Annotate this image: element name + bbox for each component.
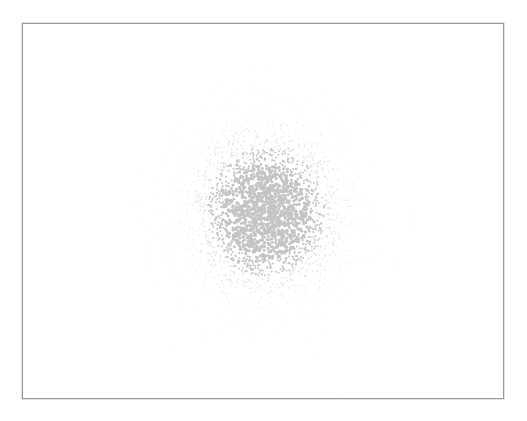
data-point: [270, 149, 272, 151]
data-point: [231, 282, 233, 284]
data-point: [186, 220, 188, 222]
data-point: [253, 160, 255, 162]
data-point: [290, 103, 291, 104]
data-point: [319, 134, 320, 135]
data-point: [194, 153, 195, 154]
data-point: [318, 176, 320, 178]
data-point: [317, 125, 318, 126]
data-point: [314, 277, 316, 279]
data-point: [355, 197, 356, 198]
data-point: [216, 251, 218, 253]
data-point: [331, 245, 333, 247]
data-point: [312, 145, 314, 147]
data-point: [200, 264, 201, 265]
data-point: [224, 249, 226, 251]
data-point: [263, 228, 266, 231]
data-point: [165, 155, 166, 156]
data-point: [305, 198, 308, 201]
data-point: [271, 235, 274, 238]
data-point: [271, 135, 273, 137]
data-point: [200, 257, 202, 259]
data-point: [302, 240, 304, 242]
data-point: [230, 270, 232, 272]
data-point: [267, 259, 269, 261]
data-point: [222, 292, 223, 293]
data-point: [248, 221, 251, 224]
data-point: [191, 257, 192, 258]
data-point: [346, 250, 347, 251]
data-point: [200, 205, 202, 207]
data-point: [283, 135, 285, 137]
data-point: [270, 290, 272, 292]
data-point: [268, 66, 269, 67]
data-point: [263, 245, 266, 248]
data-point: [306, 270, 308, 272]
data-point: [308, 192, 310, 194]
data-point: [215, 153, 217, 155]
data-point: [212, 132, 213, 133]
data-point: [301, 318, 302, 319]
data-point: [312, 231, 314, 233]
data-point: [240, 184, 243, 187]
data-point: [209, 162, 211, 164]
data-point: [257, 177, 260, 180]
data-point: [331, 220, 333, 222]
data-point: [226, 125, 227, 126]
data-point: [305, 262, 307, 264]
data-point: [249, 130, 251, 132]
data-point: [337, 141, 338, 142]
data-point: [298, 183, 301, 186]
data-point: [223, 227, 225, 229]
data-point: [261, 181, 264, 184]
data-point: [262, 149, 264, 151]
data-point: [221, 169, 223, 171]
data-point: [180, 137, 181, 138]
data-point: [241, 269, 243, 271]
data-point: [202, 206, 204, 208]
data-point: [255, 218, 258, 221]
data-point: [321, 238, 323, 240]
data-point: [272, 262, 274, 264]
data-point: [339, 237, 341, 239]
data-point: [275, 286, 277, 288]
data-point: [187, 238, 188, 239]
data-point: [219, 192, 221, 194]
data-point: [210, 154, 212, 156]
data-point: [350, 160, 351, 161]
data-point: [238, 278, 240, 280]
data-point: [249, 256, 251, 258]
data-point: [271, 241, 274, 244]
data-point: [320, 230, 322, 232]
data-point: [320, 299, 321, 300]
data-point: [274, 196, 277, 199]
data-point: [318, 165, 320, 167]
data-point: [345, 144, 346, 145]
data-point: [326, 293, 327, 294]
data-point: [254, 205, 257, 208]
data-point: [242, 187, 245, 190]
data-point: [304, 231, 307, 234]
data-point: [303, 160, 305, 162]
data-point: [247, 263, 249, 265]
data-point: [252, 269, 254, 271]
data-point: [194, 190, 196, 192]
data-point: [315, 229, 317, 231]
data-point: [248, 279, 250, 281]
data-point: [209, 159, 211, 161]
data-point: [236, 154, 238, 156]
data-point: [196, 191, 198, 193]
data-point: [283, 183, 286, 186]
data-point: [259, 143, 261, 145]
data-point: [236, 302, 237, 303]
data-point: [198, 176, 200, 178]
data-point: [261, 170, 264, 173]
data-point: [337, 232, 339, 234]
data-point: [305, 144, 307, 146]
data-point: [285, 257, 287, 259]
data-point: [283, 296, 284, 297]
data-point: [276, 283, 278, 285]
data-point: [343, 134, 344, 135]
data-point: [231, 152, 233, 154]
data-point: [250, 265, 252, 267]
data-point: [287, 222, 290, 225]
